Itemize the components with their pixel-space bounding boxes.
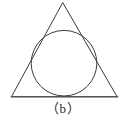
figure-container: （b） <box>0 0 126 123</box>
figure-caption: （b） <box>0 101 126 117</box>
